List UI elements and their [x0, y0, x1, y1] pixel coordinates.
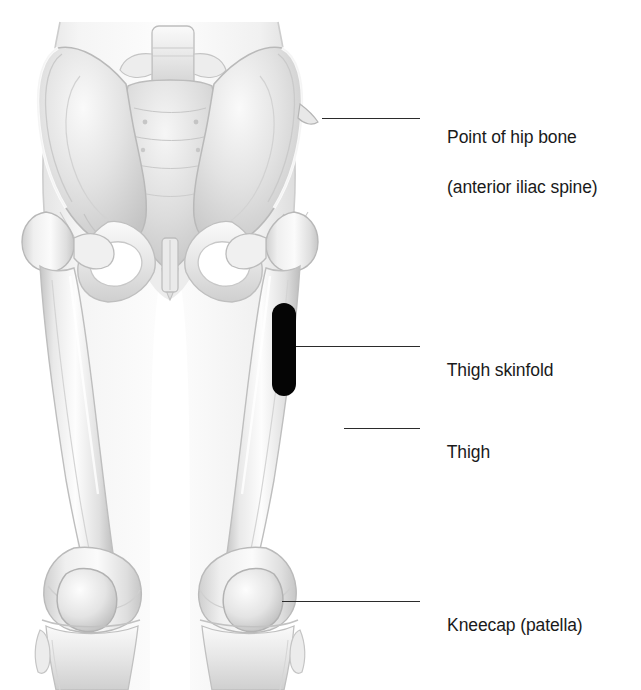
label-line-1: Kneecap (patella) [447, 615, 582, 635]
pubic-symphysis [162, 238, 178, 292]
label-kneecap-patella: Kneecap (patella) [428, 588, 583, 663]
anatomical-figure: Point of hip bone (anterior iliac spine)… [0, 0, 641, 690]
leader-line-hip-bone [322, 118, 420, 119]
skeleton-illustration [0, 0, 400, 690]
leader-line-kneecap [282, 601, 420, 602]
label-thigh-skinfold: Thigh skinfold [428, 333, 553, 408]
tibia [46, 626, 138, 690]
skeleton-svg [0, 0, 400, 690]
label-line-1: Thigh skinfold [447, 360, 554, 380]
right-knee [199, 547, 305, 690]
left-patella [57, 568, 117, 631]
left-knee [35, 547, 141, 690]
label-point-of-hip-bone: Point of hip bone (anterior iliac spine) [428, 100, 598, 225]
label-line-2: (anterior iliac spine) [447, 177, 598, 197]
thigh-skinfold-marker [272, 303, 296, 396]
leader-line-thigh-skinfold [296, 346, 420, 347]
label-line-1: Thigh [447, 442, 490, 462]
label-thigh: Thigh [428, 415, 490, 490]
label-line-1: Point of hip bone [447, 127, 577, 147]
anterior-iliac-spine [298, 104, 318, 124]
leader-line-thigh [344, 428, 420, 429]
right-patella [223, 568, 283, 631]
